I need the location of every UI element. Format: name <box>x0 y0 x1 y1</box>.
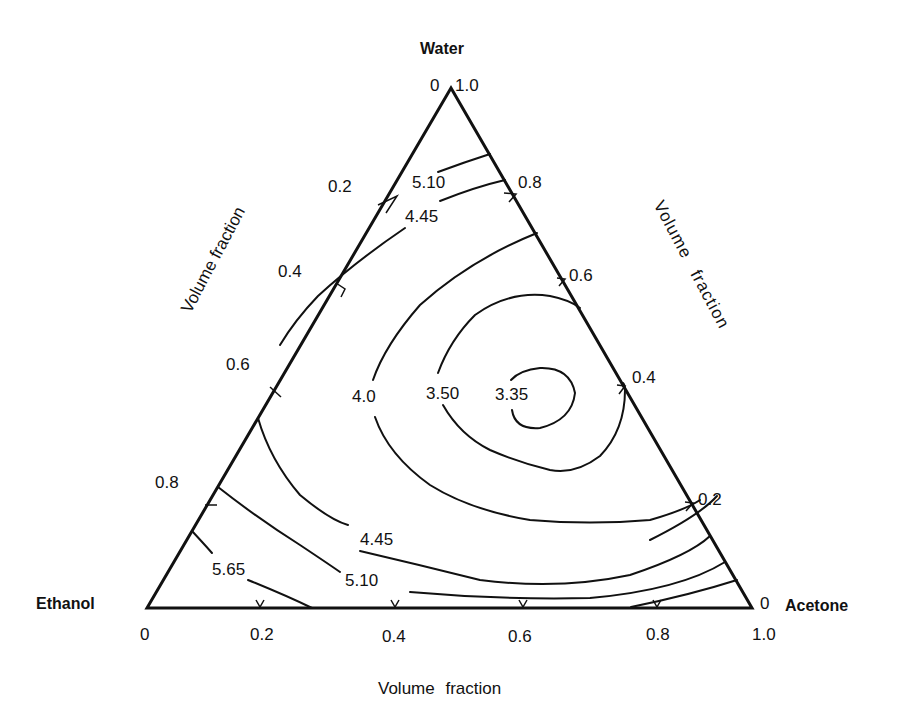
tick-bottom-0-6 <box>519 600 527 607</box>
ternary-plot <box>0 0 902 726</box>
apex-tick-left: 0 <box>430 76 439 96</box>
bottom-tick-0: 0 <box>140 625 149 645</box>
contour-label-5-10-bottom: 5.10 <box>345 571 378 591</box>
right-tick-0-4: 0.4 <box>632 368 656 388</box>
left-tick-0-2: 0.2 <box>328 177 352 197</box>
contour-label-3-35: 3.35 <box>495 385 528 405</box>
contour-4-0-upper <box>373 233 537 380</box>
contour-label-4-45-bottom: 4.45 <box>360 530 393 550</box>
bottom-tick-0-4: 0.4 <box>382 627 406 647</box>
contour-label-4-0: 4.0 <box>352 387 376 407</box>
vertex-label-ethanol: Ethanol <box>36 595 95 613</box>
bottom-axis-title: Volume fraction <box>378 679 501 699</box>
bottom-tick-0-8: 0.8 <box>646 625 670 645</box>
bottom-tick-0-6: 0.6 <box>508 627 532 647</box>
contour-label-5-10-top: 5.10 <box>412 173 445 193</box>
right-tick-0-2: 0.2 <box>698 490 722 510</box>
contour-3-50 <box>438 295 625 471</box>
bottom-tick-1-0: 1.0 <box>752 625 776 645</box>
contour-5-65-left <box>192 531 212 553</box>
contour-label-3-50: 3.50 <box>426 384 459 404</box>
right-tick-0-8: 0.8 <box>518 173 542 193</box>
tick-bottom-0-2 <box>256 600 264 607</box>
contour-edge-bottom-right <box>631 580 737 607</box>
contour-label-4-45-top: 4.45 <box>405 207 438 227</box>
contour-label-5-65: 5.65 <box>212 560 245 580</box>
left-tick-0-6: 0.6 <box>226 355 250 375</box>
left-tick-0-4: 0.4 <box>278 262 302 282</box>
contour-5-10-top-b <box>440 180 505 201</box>
contour-5-10-top-a <box>438 154 490 172</box>
contour-5-10-bottom <box>410 562 725 598</box>
tick-bottom-0-4 <box>391 600 399 607</box>
vertex-label-water: Water <box>420 40 464 58</box>
apex-tick-right: 1.0 <box>455 76 479 96</box>
contour-4-45-left <box>258 418 348 525</box>
right-tick-0: 0 <box>760 594 769 614</box>
contour-4-45-bottom <box>360 536 710 584</box>
vertex-label-acetone: Acetone <box>785 597 848 615</box>
left-tick-0-8: 0.8 <box>155 473 179 493</box>
right-tick-0-6: 0.6 <box>569 266 593 286</box>
bottom-tick-0-2: 0.2 <box>250 625 274 645</box>
